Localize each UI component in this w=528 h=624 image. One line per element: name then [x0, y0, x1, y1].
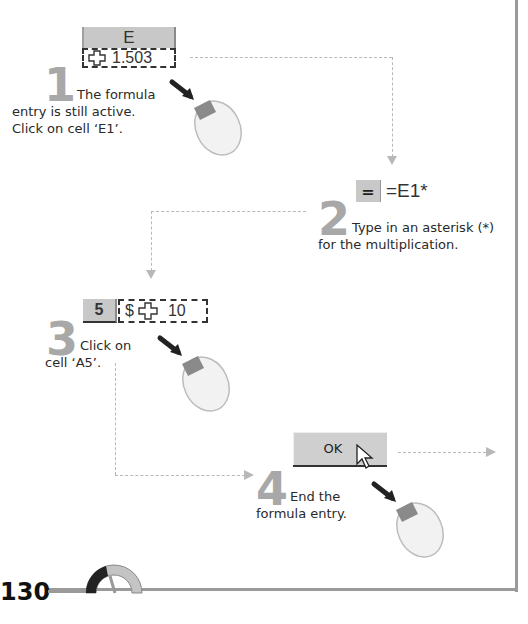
page-border-right — [515, 0, 518, 592]
connector-2-to-3-vertical — [151, 211, 152, 271]
equals-icon: = — [361, 182, 374, 201]
connector-3-to-4 — [115, 475, 245, 476]
mouse-click-icon — [168, 78, 248, 156]
ok-button-label: OK — [324, 441, 343, 456]
cell-value: 1.503 — [112, 49, 152, 67]
column-header-e[interactable]: E — [82, 27, 176, 48]
cell-value: 10 — [168, 302, 186, 320]
connector-3-to-4-vertical — [115, 363, 116, 475]
row-header-5[interactable]: 5 — [83, 299, 117, 323]
mouse-click-icon — [156, 334, 236, 412]
step-4-caption: End the formula entry. — [256, 488, 376, 522]
mouse-pointer-icon — [355, 444, 375, 470]
connector-1-to-2-vertical — [392, 57, 393, 157]
equals-button[interactable]: = — [356, 180, 381, 202]
plus-cross-cursor-icon — [88, 50, 106, 66]
page-number: 130 — [0, 578, 50, 606]
cell-e1[interactable]: 1.503 — [82, 48, 176, 68]
row-header-label: 5 — [95, 301, 104, 318]
step-3-caption: Click on cell ‘A5’. — [45, 337, 155, 371]
footer-rule-left — [48, 590, 86, 593]
connector-2-to-3 — [151, 211, 306, 212]
arrow-right-icon — [486, 447, 496, 457]
arrow-down-icon — [146, 270, 156, 279]
formula-bar-text[interactable]: =E1* — [386, 180, 428, 202]
step-1-caption: The formula entry is still active. Click… — [12, 86, 162, 137]
arrow-right-icon — [244, 470, 254, 480]
connector-4-to-next — [398, 452, 486, 453]
column-header-label: E — [123, 28, 134, 47]
connector-1-to-2 — [190, 57, 392, 58]
mouse-click-icon — [370, 480, 450, 558]
plus-cross-cursor-icon — [138, 302, 158, 320]
gauge-icon — [84, 562, 144, 594]
step-2-caption: Type in an asterisk (*) for the multipli… — [318, 219, 528, 253]
arrow-down-icon — [387, 156, 397, 165]
cell-a5[interactable]: $ 10 — [118, 299, 208, 323]
currency-symbol: $ — [125, 302, 134, 320]
